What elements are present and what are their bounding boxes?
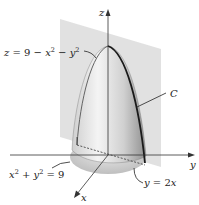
- circle-equation-label: x2 + y2 = 9: [9, 168, 64, 180]
- z-axis-label: z: [98, 7, 105, 18]
- y-axis-label: y: [189, 159, 196, 170]
- surface-equation-label: z = 9 − x2 − y2: [3, 46, 79, 58]
- circle-leader-line: [52, 162, 70, 168]
- plane-leader-line: [134, 168, 143, 183]
- plane-equation-label: y = 2x: [143, 177, 177, 188]
- y-axis-arrow-icon: [188, 153, 195, 158]
- x-axis-label: x: [81, 192, 87, 203]
- x-axis-arrow-icon: [74, 191, 81, 199]
- paraboloid-diagram: z y x z = 9 − x2 − y2 C x2 + y2 = 9 y = …: [0, 0, 199, 205]
- curve-C-label: C: [170, 88, 178, 99]
- z-axis-arrow-icon: [106, 9, 111, 16]
